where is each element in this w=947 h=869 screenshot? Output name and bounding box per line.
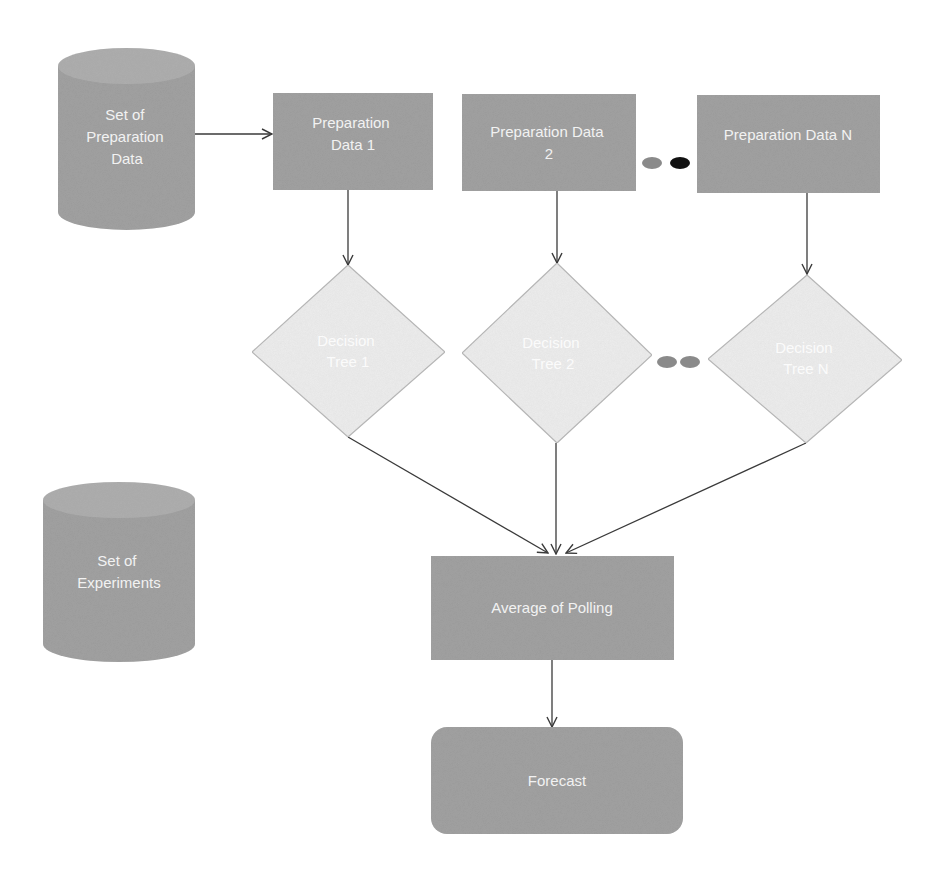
dot-gray-icon: [680, 356, 700, 368]
cylinder-set-of-experiments[interactable]: [43, 482, 195, 662]
diamond-decision-tree-2[interactable]: [462, 263, 652, 443]
edge-treen-to-average: [566, 443, 806, 553]
box-preparation-data-2[interactable]: [462, 94, 636, 191]
box-label-preparation-data-n: Preparation Data N: [724, 126, 852, 143]
edge-tree1-to-average: [348, 437, 548, 553]
diamond-decision-tree-1[interactable]: [252, 265, 445, 437]
box-preparation-data-n[interactable]: [697, 95, 880, 193]
dot-black-icon: [670, 157, 690, 169]
dot-gray-icon: [657, 356, 677, 368]
ellipsis-top-row: [642, 157, 690, 169]
dot-gray-icon: [642, 157, 662, 169]
random-forest-flow-diagram: Set of Preparation Data Set of Experimen…: [0, 0, 947, 869]
box-label-average-of-polling: Average of Polling: [491, 599, 612, 616]
diamond-decision-tree-n[interactable]: [708, 275, 902, 443]
box-label-forecast: Forecast: [528, 772, 587, 789]
ellipsis-middle-row: [657, 356, 700, 368]
